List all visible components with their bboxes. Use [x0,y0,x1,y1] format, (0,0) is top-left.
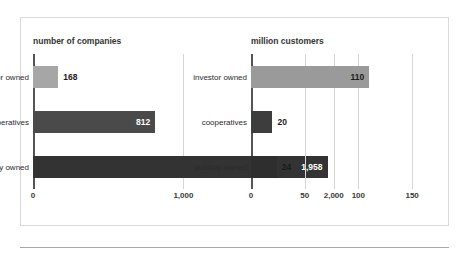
category-label: publicly owned [0,162,29,171]
category-label: publicly owned [195,162,247,171]
tick-label: 150 [405,191,418,200]
plot-area-customers: investor owned 110 cooperatives 20 publi… [251,54,439,189]
category-label: cooperatives [202,117,247,126]
bar-value-publicly-owned-customers: 24 [282,162,291,172]
bar-investor-owned-companies [33,66,58,88]
bar-value-cooperatives-companies: 812 [136,117,150,127]
chart-figure: number of companies investor owned 168 c… [20,17,449,226]
x-axis-ticklabels-customers: 0 50 100 150 [251,191,439,205]
bar-publicly-owned-customers [251,156,277,178]
category-label: investor owned [0,72,29,81]
bar-row-investor-owned-customers: investor owned 110 [251,54,439,99]
chart-title-companies: number of companies [33,36,121,46]
bar-cooperatives-companies: 812 [33,111,155,133]
bar-value-investor-owned-customers: 110 [351,72,365,82]
chart-panel-customers: million customers investor owned 110 coo… [239,18,450,225]
tick-label: 50 [300,191,309,200]
bar-row-publicly-owned-customers: publicly owned 24 [251,144,439,189]
bar-investor-owned-customers: 110 [251,66,369,88]
bar-row-cooperatives-companies: cooperatives 812 [33,99,223,144]
bar-value-cooperatives-customers: 20 [277,117,286,127]
chart-title-customers: million customers [251,36,324,46]
category-label: cooperatives [0,117,29,126]
tick-label: 0 [249,191,253,200]
horizontal-rule [20,247,449,248]
bar-cooperatives-customers [251,111,272,133]
tick-label: 100 [352,191,365,200]
bar-row-cooperatives-customers: cooperatives 20 [251,99,439,144]
tick-label: 1,000 [173,191,193,200]
tick-label: 0 [31,191,35,200]
category-label: investor owned [193,72,247,81]
x-axis-ticklabels-companies: 0 1,000 2,000 [33,191,223,205]
bar-value-investor-owned-companies: 168 [63,72,77,82]
